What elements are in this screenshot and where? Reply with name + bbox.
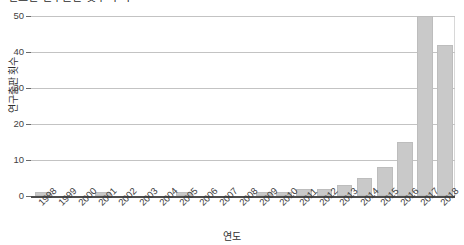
x-axis-title: 연도 <box>0 231 464 242</box>
bar <box>417 16 433 196</box>
y-axis-tick <box>26 160 31 161</box>
y-axis-tick-label: 0 <box>2 191 24 201</box>
chart-figure: 연도별 연구출판 횟수 추이 01020304050 연구출판 횟수 19981… <box>0 0 464 245</box>
y-axis-title: 연구출판 횟수 <box>9 40 19 130</box>
y-axis-tick-label: 10 <box>2 155 24 165</box>
bar <box>437 45 453 196</box>
y-axis-tick-label: 50 <box>2 11 24 21</box>
x-axis-tick-label-wrap: 2018 <box>425 198 464 212</box>
chart-title: 연도별 연구출판 횟수 추이 <box>8 0 248 4</box>
bars-group <box>33 16 455 196</box>
y-axis-tick <box>26 196 31 197</box>
y-axis-tick <box>26 124 31 125</box>
y-axis-tick <box>26 52 31 53</box>
x-axis-tick-labels: 1998199920002001200220032004200520062007… <box>33 198 455 230</box>
y-axis-tick <box>26 88 31 89</box>
chart-title-clipped-region: 연도별 연구출판 횟수 추이 <box>8 0 248 5</box>
y-axis-tick <box>26 16 31 17</box>
